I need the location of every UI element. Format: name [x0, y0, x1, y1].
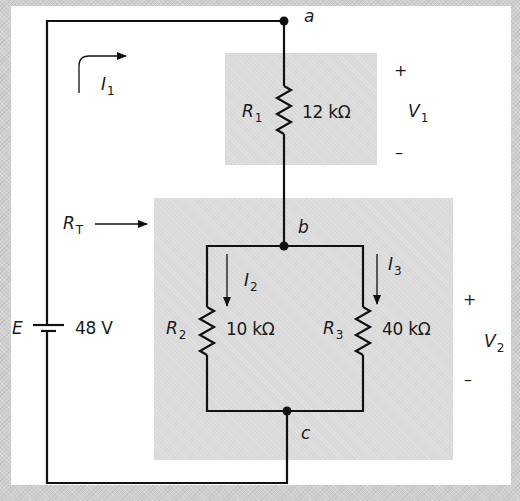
v2-plus-sign: +: [463, 292, 476, 308]
resistor-r3-zigzag: [356, 307, 370, 355]
wire-bottom: [47, 331, 287, 483]
node-c-dot: [283, 407, 292, 416]
r3-value: 40 kΩ: [382, 321, 430, 338]
resistor-r2-zigzag: [200, 307, 214, 355]
circuit-wiring: [0, 0, 520, 501]
r2-value: 10 kΩ: [226, 321, 274, 338]
v2-minus-sign: –: [464, 372, 472, 388]
r3-label: R3: [323, 320, 343, 337]
wire-bottom-parallel: [207, 355, 363, 411]
v1-minus-sign: –: [395, 145, 403, 161]
v1-label: V1: [408, 103, 428, 120]
v2-label: V2: [484, 333, 504, 350]
node-c-label: c: [301, 425, 310, 442]
source-e-label: E: [12, 320, 23, 337]
source-voltage-value: 48 V: [75, 320, 112, 337]
node-a-dot: [280, 17, 289, 26]
current-i2-label: I2: [244, 272, 258, 289]
wire-top-parallel: [207, 246, 363, 307]
r2-label: R2: [166, 320, 186, 337]
node-b-label: b: [298, 219, 309, 236]
node-b-dot: [280, 242, 289, 251]
v1-plus-sign: +: [394, 63, 407, 79]
r1-label: R1: [242, 103, 262, 120]
r1-value: 12 kΩ: [302, 104, 350, 121]
current-i3-label: I3: [388, 256, 402, 273]
current-i1-label: I1: [101, 76, 115, 93]
node-a-label: a: [304, 8, 314, 25]
rt-label: RT: [63, 215, 83, 232]
resistor-r1-zigzag: [277, 86, 291, 134]
